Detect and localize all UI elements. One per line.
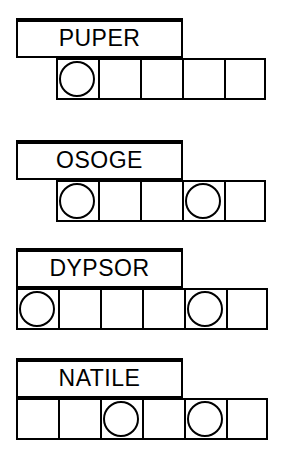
answer-cell-row <box>56 58 266 100</box>
circle-marker-icon <box>185 183 221 219</box>
answer-cell[interactable] <box>142 288 184 330</box>
circle-marker-icon <box>19 291 55 327</box>
word-label-text: DYPSOR <box>49 257 149 281</box>
answer-cell[interactable] <box>182 58 224 100</box>
answer-cell[interactable] <box>184 288 226 330</box>
answer-cell[interactable] <box>56 58 98 100</box>
word-label-text: NATILE <box>59 367 141 391</box>
puzzle-sheet: PUPER OSOGE DYPSOR NATILE <box>0 0 286 464</box>
answer-cell-row <box>16 288 268 330</box>
word-label-text: PUPER <box>59 27 141 51</box>
answer-cell[interactable] <box>182 180 224 222</box>
answer-cell[interactable] <box>58 398 100 440</box>
answer-cell[interactable] <box>56 180 98 222</box>
answer-cell[interactable] <box>226 398 268 440</box>
circle-marker-icon <box>59 61 95 97</box>
answer-cell[interactable] <box>140 180 182 222</box>
answer-cell[interactable] <box>98 58 140 100</box>
answer-cell[interactable] <box>224 180 266 222</box>
word-label-box: NATILE <box>16 358 183 398</box>
answer-cell[interactable] <box>142 398 184 440</box>
circle-marker-icon <box>59 183 95 219</box>
word-label-text: OSOGE <box>56 149 143 173</box>
answer-cell[interactable] <box>100 288 142 330</box>
answer-cell-row <box>56 180 266 222</box>
word-label-box: DYPSOR <box>16 248 183 288</box>
answer-cell[interactable] <box>184 398 226 440</box>
answer-cell[interactable] <box>58 288 100 330</box>
answer-cell[interactable] <box>140 58 182 100</box>
answer-cell[interactable] <box>98 180 140 222</box>
answer-cell[interactable] <box>16 398 58 440</box>
circle-marker-icon <box>103 401 139 437</box>
circle-marker-icon <box>187 291 223 327</box>
word-label-box: PUPER <box>16 18 183 58</box>
answer-cell-row <box>16 398 268 440</box>
answer-cell[interactable] <box>226 288 268 330</box>
word-label-box: OSOGE <box>16 140 183 180</box>
answer-cell[interactable] <box>16 288 58 330</box>
answer-cell[interactable] <box>224 58 266 100</box>
answer-cell[interactable] <box>100 398 142 440</box>
circle-marker-icon <box>187 401 223 437</box>
